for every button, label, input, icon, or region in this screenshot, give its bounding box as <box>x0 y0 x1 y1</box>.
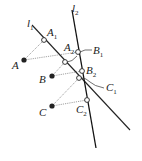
label-B1: B1 <box>93 45 103 59</box>
label-A1: A1 <box>47 27 57 41</box>
label-C1: C1 <box>106 82 117 96</box>
leader-B1 <box>80 50 92 52</box>
label-l1: l1 <box>27 18 34 32</box>
label-l2: l2 <box>72 3 79 17</box>
label-A: A <box>12 60 19 71</box>
C-to-C1 <box>52 78 79 106</box>
point-C <box>49 103 54 108</box>
point-A2 <box>76 50 81 55</box>
point-B2 <box>80 69 85 74</box>
label-A2: A2 <box>64 42 74 56</box>
label-C2: C2 <box>76 104 87 118</box>
point-C2 <box>85 98 90 103</box>
point-A1 <box>42 38 47 43</box>
point-A <box>21 57 26 62</box>
projection-diagram <box>0 0 142 161</box>
label-C: C <box>39 107 46 118</box>
label-B2: B2 <box>86 65 96 79</box>
point-B1 <box>63 60 68 65</box>
leader-arrow-A2 <box>67 56 77 62</box>
point-B <box>49 73 54 78</box>
point-C1 <box>77 76 82 81</box>
A-to-A1 <box>24 40 44 60</box>
label-B: B <box>39 74 46 85</box>
